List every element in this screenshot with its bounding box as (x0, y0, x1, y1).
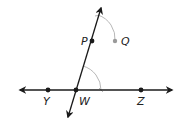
label-Q: Q (121, 35, 130, 48)
arc-at-P (98, 15, 115, 41)
point-Q (113, 39, 117, 43)
point-W (74, 88, 79, 93)
label-Z: Z (136, 95, 145, 108)
point-P (90, 39, 95, 44)
label-P: P (81, 35, 88, 48)
point-Z (139, 88, 144, 93)
point-Y (46, 88, 51, 93)
label-W: W (79, 95, 91, 108)
arc-at-W (83, 66, 101, 90)
label-Y: Y (43, 95, 51, 108)
geometry-diagram: Y W Z P Q (0, 0, 184, 125)
